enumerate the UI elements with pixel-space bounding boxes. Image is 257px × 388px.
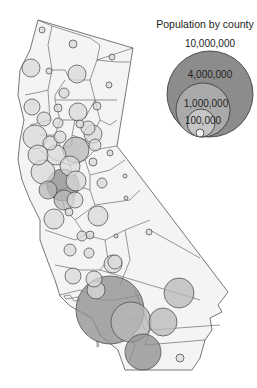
county-population-bubble — [97, 178, 107, 188]
county-population-bubble — [107, 150, 113, 156]
county-population-bubble — [46, 68, 52, 74]
county-population-bubble — [67, 192, 83, 208]
county-population-bubble — [164, 278, 194, 308]
county-population-bubble — [39, 181, 57, 199]
county-population-bubble — [65, 268, 81, 284]
legend-label-1m: 1,000,000 — [166, 98, 246, 109]
county-population-bubble — [125, 334, 161, 370]
legend-label-10m: 10,000,000 — [170, 38, 250, 49]
california-county-population-map — [0, 0, 257, 388]
county-population-bubble — [53, 118, 63, 128]
county-population-bubble — [86, 271, 102, 287]
county-population-bubble — [114, 234, 118, 238]
county-population-bubble — [123, 174, 127, 178]
county-population-bubble — [86, 231, 94, 239]
county-population-bubble — [65, 208, 73, 216]
county-population-bubble — [39, 27, 45, 33]
county-population-bubble — [109, 54, 115, 60]
county-population-bubble — [66, 171, 86, 191]
county-population-bubble — [108, 255, 122, 269]
county-population-bubble — [88, 206, 108, 226]
county-population-bubble — [124, 196, 128, 200]
county-population-bubble — [22, 59, 40, 77]
county-population-bubble — [149, 308, 177, 336]
county-population-bubble — [84, 248, 94, 258]
county-population-bubble — [106, 82, 112, 88]
county-population-bubble — [76, 120, 84, 128]
county-population-bubble — [64, 244, 76, 256]
county-population-bubble — [54, 104, 62, 112]
county-population-bubble — [93, 102, 101, 110]
legend-circle — [196, 129, 204, 137]
county-population-bubble — [89, 139, 101, 151]
county-population-bubble — [69, 40, 77, 48]
county-population-bubble — [24, 99, 40, 115]
county-population-bubble — [69, 103, 87, 121]
county-population-bubble — [77, 231, 87, 241]
county-population-bubble — [176, 354, 184, 362]
county-population-bubble — [37, 112, 51, 126]
county-population-bubble — [44, 209, 64, 229]
legend-label-100k: 100,000 — [163, 115, 243, 126]
county-population-bubble — [68, 65, 86, 83]
county-population-bubble — [54, 131, 66, 143]
county-population-bubble — [89, 158, 97, 166]
county-population-bubble — [59, 88, 69, 98]
county-population-bubble — [146, 229, 152, 235]
legend-label-4m: 4,000,000 — [170, 69, 250, 80]
legend-title: Population by county — [150, 18, 257, 30]
